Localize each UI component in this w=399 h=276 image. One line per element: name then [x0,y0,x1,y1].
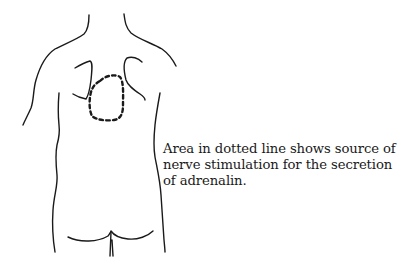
left-torso-outline [53,93,60,252]
anatomy-figure: Area in dotted line shows source of nerv… [0,0,399,276]
gluteal-cleft [110,232,113,256]
caption-line: of adrenalin. [163,173,399,189]
left-shoulder-outline [23,15,89,125]
caption-line: Area in dotted line shows source of [163,141,399,157]
left-scapula-outline [73,61,92,99]
right-shoulder-outline [124,14,176,66]
figure-caption: Area in dotted line shows source of nerv… [163,141,399,189]
caption-line: nerve stimulation for the secretion [163,157,399,173]
right-scapula-outline [124,57,145,100]
dotted-area-outline [90,75,124,120]
torso-back-illustration [0,0,399,276]
